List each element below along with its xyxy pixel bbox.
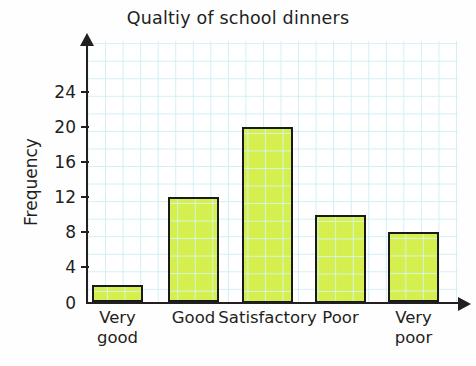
y-axis-tick [81,126,89,128]
x-axis-line [86,302,461,304]
bar [242,127,293,303]
y-axis-tick [81,161,89,163]
y-axis-tick-label: 16 [48,152,76,172]
bar-chart: Qualtiy of school dinners 04812162024 Fr… [0,0,476,366]
y-axis-tick-label: 12 [48,187,76,207]
bar [168,197,219,302]
y-axis-line [86,44,88,304]
y-axis-tick-label: 4 [48,257,76,277]
y-axis-tick-label: 20 [48,117,76,137]
y-axis-tick-label: 24 [48,82,76,102]
x-axis-category-label: Very poor [362,308,466,348]
bar [315,215,366,303]
bar [92,285,143,303]
y-axis-tick-label: 8 [48,222,76,242]
up-arrow-icon [80,33,94,46]
plot-area [88,41,458,303]
y-axis-tick [81,266,89,268]
bar [388,232,439,302]
y-axis-title: Frequency [21,92,41,272]
chart-title: Qualtiy of school dinners [0,8,476,28]
y-axis-tick [81,91,89,93]
y-axis-tick [81,231,89,233]
y-axis-tick [81,196,89,198]
